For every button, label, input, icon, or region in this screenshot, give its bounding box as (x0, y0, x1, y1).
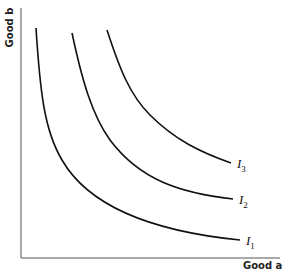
curve-label-i1: I1 (246, 233, 255, 251)
curve-i1 (36, 28, 240, 240)
curve-i3 (107, 30, 231, 163)
x-axis-label: Good a (243, 260, 282, 270)
y-axis-label: Good b (4, 8, 15, 48)
curve-i2 (72, 33, 233, 199)
curve-label-i3: I3 (237, 156, 246, 174)
curve-label-i2: I2 (239, 192, 248, 210)
indifference-diagram (0, 0, 282, 270)
